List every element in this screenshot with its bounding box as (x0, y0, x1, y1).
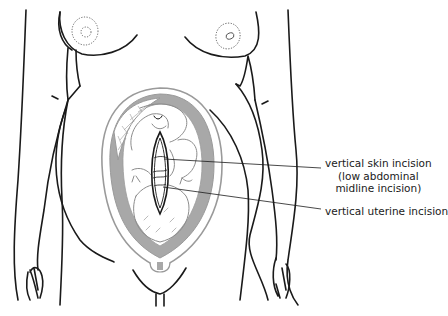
label-vertical-skin-incision: vertical skin incision (low abdominal mi… (325, 157, 432, 195)
label-line: vertical skin incision (325, 157, 432, 170)
label-line: (low abdominal (325, 170, 432, 183)
label-line: midline incision) (325, 182, 432, 195)
label-vertical-uterine-incision: vertical uterine incision (325, 205, 448, 218)
nipples (72, 17, 244, 52)
